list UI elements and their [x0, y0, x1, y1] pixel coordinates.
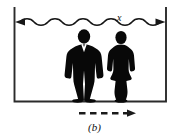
male-silhouette	[65, 29, 104, 102]
dashed-motion-arrow	[79, 110, 136, 117]
arrowhead-right-icon	[156, 18, 166, 25]
wavy-dimension-arrow	[15, 18, 166, 25]
female-body	[107, 45, 135, 101]
male-foot-left	[72, 99, 83, 103]
dimension-label-x: x	[117, 13, 121, 23]
figure-panel-b: x (b)	[0, 0, 182, 139]
wavy-line	[20, 19, 160, 25]
female-head	[115, 31, 126, 44]
female-feet	[115, 99, 128, 103]
panel-label: (b)	[88, 122, 101, 133]
motion-arrowhead-icon	[127, 110, 136, 117]
arrowhead-left-icon	[15, 18, 25, 25]
figure-canvas	[0, 0, 182, 139]
male-head	[78, 29, 90, 43]
female-silhouette	[107, 31, 135, 103]
male-body	[65, 44, 104, 101]
male-foot-right	[85, 99, 96, 103]
